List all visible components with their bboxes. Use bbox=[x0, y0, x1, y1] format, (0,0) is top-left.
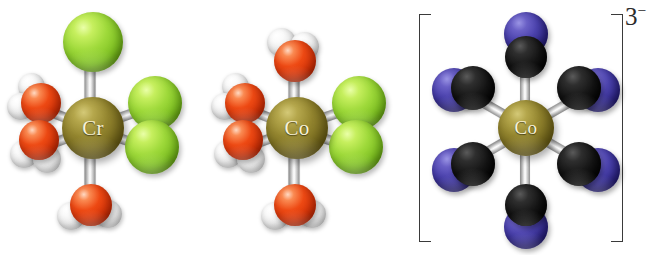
carbon-atom bbox=[557, 66, 601, 110]
metal-center-label: Co bbox=[266, 97, 328, 159]
molecular-structure-figure: Cr Co 3− bbox=[0, 0, 657, 255]
charge-value: 3 bbox=[625, 3, 638, 30]
carbon-atom bbox=[451, 66, 495, 110]
metal-center-atom: Co bbox=[266, 97, 328, 159]
carbon-atom bbox=[505, 184, 547, 226]
carbon-atom bbox=[451, 142, 495, 186]
metal-center-label: Co bbox=[498, 100, 554, 156]
charge-sign: − bbox=[638, 2, 646, 19]
carbon-atom bbox=[557, 142, 601, 186]
bracket-right bbox=[611, 14, 623, 242]
metal-center-atom: Cr bbox=[62, 97, 124, 159]
charge-label: 3− bbox=[625, 2, 646, 31]
carbon-atom bbox=[505, 36, 547, 78]
metal-center-atom: Co bbox=[498, 100, 554, 156]
bracket-left bbox=[419, 14, 431, 242]
metal-center-label: Cr bbox=[62, 97, 124, 159]
